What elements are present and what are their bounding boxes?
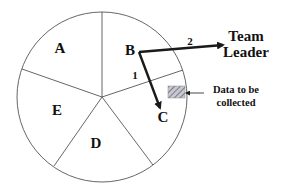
segment-label-a: A (55, 40, 66, 56)
data-note-line1: Data to be (213, 84, 259, 95)
sector-dividers (22, 12, 183, 166)
data-note-line2: collected (216, 97, 255, 108)
team-leader-label-line1: Team (228, 28, 264, 44)
sector-diagram: ABCDE 12 Team Leader Data to be collecte… (0, 0, 284, 189)
segment-labels: ABCDE (52, 40, 168, 151)
arrow-1-number: 1 (132, 69, 138, 81)
divider-line-2 (102, 97, 153, 165)
team-leader-label-line2: Leader (223, 44, 269, 60)
arrow-2 (139, 45, 223, 52)
segment-label-b: B (125, 42, 135, 58)
segment-label-e: E (52, 102, 62, 118)
arrow-1 (139, 52, 160, 108)
arrow-2-number: 2 (187, 35, 193, 47)
divider-line-4 (22, 69, 102, 97)
segment-label-d: D (91, 135, 102, 151)
segment-label-c: C (158, 109, 169, 125)
data-collection-box (168, 86, 185, 98)
